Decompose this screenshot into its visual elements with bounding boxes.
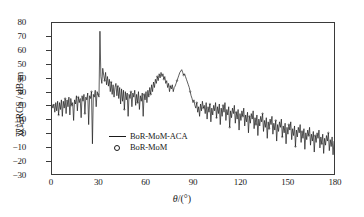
y-axis-title: 双站RCS / dBsm [13, 45, 26, 165]
x-tick-label: 60 [141, 178, 150, 187]
legend: BoR-MoM-ACA BoR-MoM [106, 131, 187, 153]
legend-circle-marker-icon [106, 145, 128, 151]
data-markers-bor-mom [52, 74, 329, 147]
y-axis-title-ascii: RCS / dBsm [15, 72, 25, 120]
y-tick-label: 80 [17, 18, 26, 27]
x-tick-label: 30 [94, 178, 103, 187]
x-tick-label: 120 [234, 178, 247, 187]
x-axis-title: θ/(°) [0, 193, 364, 204]
x-tick-label: 150 [281, 178, 294, 187]
legend-item-bor-mom-aca: BoR-MoM-ACA [106, 131, 187, 142]
y-axis-title-cjk: 双站 [15, 119, 25, 137]
legend-label: BoR-MoM-ACA [128, 131, 187, 142]
x-tick-label: 180 [328, 178, 341, 187]
x-tick-label: 0 [49, 178, 53, 187]
legend-line-icon [106, 136, 128, 137]
y-tick-label: 70 [17, 31, 26, 40]
legend-label: BoR-MoM [128, 142, 167, 153]
plot-area [51, 22, 335, 175]
x-axis-unit: /(°) [178, 193, 191, 204]
chart-figure: 80 70 60 50 40 30 20 10 0 −10 −20 −30 0 … [0, 0, 364, 217]
x-tick-label: 90 [189, 178, 198, 187]
y-tick-label: −30 [13, 170, 26, 179]
data-series-bor-mom-aca [52, 23, 334, 174]
legend-item-bor-mom: BoR-MoM [106, 142, 187, 153]
